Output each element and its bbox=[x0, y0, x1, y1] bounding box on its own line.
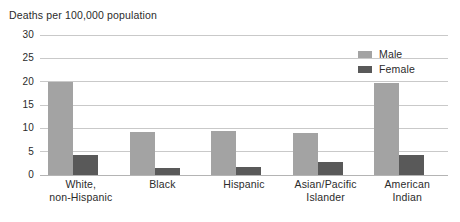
x-axis-label-line2: Indian bbox=[366, 191, 448, 204]
bar-male[interactable] bbox=[48, 82, 73, 175]
bar-male[interactable] bbox=[293, 133, 318, 175]
x-axis-label-line1: American bbox=[384, 178, 430, 190]
chart-legend: Male Female bbox=[358, 47, 454, 77]
bar-female[interactable] bbox=[318, 162, 343, 175]
bar-group bbox=[203, 35, 285, 175]
x-axis-label-line1: Hispanic bbox=[223, 178, 264, 190]
legend-swatch-male-icon bbox=[358, 51, 372, 58]
bar-male[interactable] bbox=[211, 131, 236, 175]
bar-chart: Deaths per 100,000 population 0510152025… bbox=[0, 0, 460, 222]
legend-swatch-female-icon bbox=[358, 66, 372, 73]
legend-item-female[interactable]: Female bbox=[358, 62, 454, 77]
bar-female[interactable] bbox=[155, 168, 180, 175]
x-axis-label: Hispanic bbox=[203, 178, 285, 191]
bar-female[interactable] bbox=[236, 167, 261, 175]
bar-group bbox=[285, 35, 367, 175]
x-axis-label: Black bbox=[122, 178, 204, 191]
y-axis-tick-15: 15 bbox=[6, 100, 34, 110]
x-axis-label-line1: Asian/Pacific bbox=[295, 178, 357, 190]
bar-group bbox=[122, 35, 204, 175]
bar-male[interactable] bbox=[130, 132, 155, 175]
legend-label-male: Male bbox=[379, 47, 402, 62]
legend-label-female: Female bbox=[379, 62, 415, 77]
y-axis-tick-30: 30 bbox=[6, 30, 34, 40]
y-axis-tick-20: 20 bbox=[6, 77, 34, 87]
bar-female[interactable] bbox=[399, 155, 424, 175]
y-axis-tick-10: 10 bbox=[6, 123, 34, 133]
x-axis-label: White,non-Hispanic bbox=[40, 178, 122, 204]
bar-female[interactable] bbox=[73, 155, 98, 175]
x-axis-label: Asian/PacificIslander bbox=[285, 178, 367, 204]
bar-group bbox=[40, 35, 122, 175]
x-axis-label-line1: Black bbox=[149, 178, 175, 190]
y-axis: 051015202530 bbox=[0, 35, 34, 175]
y-axis-tick-5: 5 bbox=[6, 147, 34, 157]
chart-title: Deaths per 100,000 population bbox=[9, 9, 157, 21]
x-axis-label-line2: Islander bbox=[285, 191, 367, 204]
x-axis-label-line1: White, bbox=[65, 178, 96, 190]
x-axis-label-line2: non-Hispanic bbox=[40, 191, 122, 204]
bar-male[interactable] bbox=[374, 83, 399, 175]
x-axis-labels: White,non-HispanicBlackHispanicAsian/Pac… bbox=[40, 178, 448, 222]
legend-item-male[interactable]: Male bbox=[358, 47, 454, 62]
y-axis-tick-25: 25 bbox=[6, 53, 34, 63]
x-axis-label: AmericanIndian bbox=[366, 178, 448, 204]
y-axis-tick-0: 0 bbox=[6, 170, 34, 180]
